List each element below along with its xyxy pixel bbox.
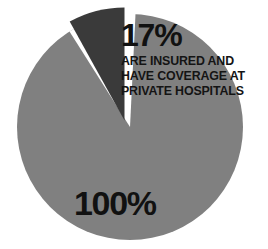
pie-chart-infographic: 17% ARE INSURED AND HAVE COVERAGE AT PRI…	[0, 0, 268, 249]
pie-chart-graphic	[0, 0, 268, 249]
